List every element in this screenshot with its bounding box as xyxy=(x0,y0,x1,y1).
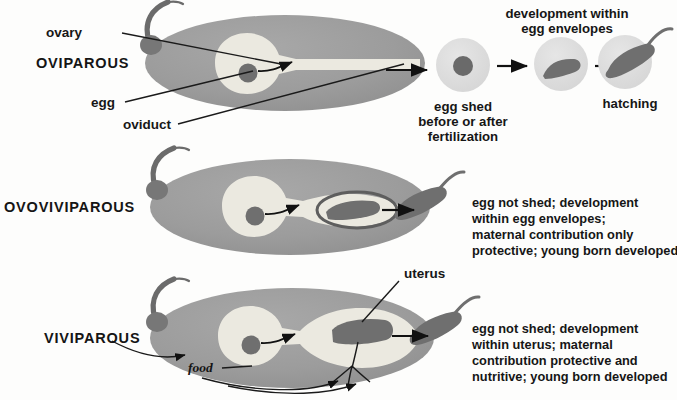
caption-development-line1: development within xyxy=(505,6,628,21)
caption-development-line2: egg envelopes xyxy=(521,21,613,36)
egg-capsule-shed xyxy=(436,38,490,92)
mode-label-ovoviviparous: OVOVIVIPAROUS xyxy=(4,199,135,215)
reproduction-modes-diagram: ovary egg oviduct OVIPAROUS development … xyxy=(0,0,677,400)
desc-viviparous-line2: within uterus; maternal xyxy=(471,337,613,352)
egg-cell xyxy=(242,336,261,355)
head-spot xyxy=(146,180,168,200)
egg-capsule-developing xyxy=(534,37,588,91)
caption-egg-shed-line1: egg shed xyxy=(434,99,492,114)
label-uterus: uterus xyxy=(404,266,445,281)
desc-ovoviviparous-line3: maternal contribution only xyxy=(472,227,634,242)
label-food: food xyxy=(188,360,213,375)
zygote xyxy=(453,56,473,76)
desc-ovoviviparous-line2: within egg envelopes; xyxy=(471,211,606,226)
diagram-canvas: ovary egg oviduct OVIPAROUS development … xyxy=(0,0,677,400)
head-spot xyxy=(146,312,168,332)
caption-hatching: hatching xyxy=(603,96,658,111)
desc-viviparous-line1: egg not shed; development xyxy=(472,321,639,336)
mode-label-oviparous: OVIPAROUS xyxy=(36,55,129,71)
caption-egg-shed-line3: fertilization xyxy=(428,129,498,144)
desc-viviparous-line4: nutritive; young born developed xyxy=(472,369,668,384)
label-ovary: ovary xyxy=(46,25,83,40)
egg-cell xyxy=(239,64,258,83)
egg-cell xyxy=(246,207,265,226)
label-oviduct: oviduct xyxy=(123,117,172,132)
desc-viviparous-line3: contribution protective and xyxy=(472,353,638,368)
desc-ovoviviparous-line4: protective; young born developed xyxy=(472,243,677,258)
caption-egg-shed-line2: before or after xyxy=(418,114,507,129)
desc-ovoviviparous-line1: egg not shed; development xyxy=(472,195,639,210)
label-egg: egg xyxy=(91,95,115,110)
mode-label-viviparous: VIVIPAROUS xyxy=(44,330,140,346)
